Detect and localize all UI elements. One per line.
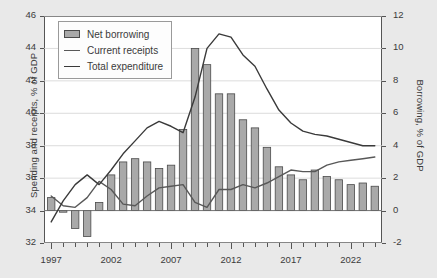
x-tick-label-2012: 2012 — [211, 254, 251, 265]
legend-item-current-receipts: Current receipts — [64, 42, 163, 58]
bar-2016 — [275, 167, 282, 211]
y-right-tick-4: 4 — [393, 139, 423, 150]
bar-2017 — [287, 175, 294, 211]
y-right-tickmark — [382, 211, 386, 212]
legend-label-total-expenditure: Total expenditure — [87, 61, 163, 72]
bar-2019 — [311, 170, 318, 211]
x-tickmark-2024 — [375, 243, 376, 247]
x-tickmark-2014 — [255, 243, 256, 247]
y-left-tick-44: 44 — [6, 41, 36, 52]
x-tick-label-2022: 2022 — [331, 254, 371, 265]
chart-container: Spending and receipts, % of GDP Borrowin… — [0, 0, 437, 278]
x-tickmark-2022 — [351, 243, 352, 249]
y-left-tick-32: 32 — [6, 236, 36, 247]
x-tick-label-1997: 1997 — [31, 254, 71, 265]
x-tickmark-2004 — [135, 243, 136, 247]
bar-1999 — [71, 211, 78, 229]
y-left-tick-42: 42 — [6, 74, 36, 85]
y-left-tickmark — [40, 146, 44, 147]
y-left-tick-34: 34 — [6, 204, 36, 215]
x-tick-label-2002: 2002 — [91, 254, 131, 265]
x-tickmark-2020 — [327, 243, 328, 247]
y-right-tick-0: 0 — [393, 204, 423, 215]
legend-label-current-receipts: Current receipts — [87, 45, 158, 56]
x-tickmark-1999 — [75, 243, 76, 247]
y-left-tickmark — [40, 16, 44, 17]
x-tickmark-2012 — [231, 243, 232, 249]
y-left-tick-38: 38 — [6, 139, 36, 150]
legend-item-total-expenditure: Total expenditure — [64, 58, 163, 74]
x-tickmark-2002 — [111, 243, 112, 249]
bar-1997 — [47, 198, 54, 211]
x-tickmark-2019 — [315, 243, 316, 247]
x-tickmark-1997 — [51, 243, 52, 249]
y-right-tick-2: 2 — [393, 171, 423, 182]
bar-2015 — [263, 147, 270, 210]
legend-label-net-borrowing: Net borrowing — [87, 29, 149, 40]
y-left-tick-46: 46 — [6, 9, 36, 20]
y-right-tick-8: 8 — [393, 74, 423, 85]
x-tickmark-1998 — [63, 243, 64, 247]
x-tickmark-2023 — [363, 243, 364, 247]
bar-2018 — [299, 180, 306, 211]
y-right-tickmark — [382, 113, 386, 114]
bar-2008 — [179, 130, 186, 211]
bar-2005 — [143, 162, 150, 211]
bar-2021 — [335, 180, 342, 211]
y-left-tickmark — [40, 113, 44, 114]
x-tickmark-2009 — [195, 243, 196, 247]
x-tickmark-2006 — [159, 243, 160, 247]
bar-2001 — [95, 202, 102, 210]
bar-2022 — [347, 185, 354, 211]
bar-2012 — [227, 94, 234, 211]
y-left-tickmark — [40, 178, 44, 179]
bar-2009 — [191, 48, 198, 210]
legend-item-net-borrowing: Net borrowing — [64, 26, 163, 42]
y-left-tickmark — [40, 211, 44, 212]
y-right-tickmark — [382, 146, 386, 147]
x-tickmark-2015 — [267, 243, 268, 247]
y-right-tick--2: -2 — [393, 236, 423, 247]
x-tickmark-2010 — [207, 243, 208, 247]
x-tickmark-2013 — [243, 243, 244, 247]
y-left-tickmark — [40, 81, 44, 82]
bar-2007 — [167, 165, 174, 210]
bar-2013 — [239, 120, 246, 211]
x-tickmark-2018 — [303, 243, 304, 247]
x-tickmark-2011 — [219, 243, 220, 247]
y-left-tick-36: 36 — [6, 171, 36, 182]
chart-legend: Net borrowing Current receipts Total exp… — [58, 21, 172, 79]
legend-bar-swatch-icon — [64, 30, 80, 38]
x-tickmark-2005 — [147, 243, 148, 247]
x-tickmark-2016 — [279, 243, 280, 247]
x-tick-label-2017: 2017 — [271, 254, 311, 265]
x-tickmark-2000 — [87, 243, 88, 247]
y-right-tickmark — [382, 178, 386, 179]
x-tickmark-2017 — [291, 243, 292, 249]
y-left-tickmark — [40, 243, 44, 244]
legend-line-swatch-icon — [64, 50, 80, 51]
y-right-tick-6: 6 — [393, 106, 423, 117]
y-right-tick-10: 10 — [393, 41, 423, 52]
bar-2000 — [83, 211, 90, 237]
x-tickmark-2001 — [99, 243, 100, 247]
y-left-tick-40: 40 — [6, 106, 36, 117]
y-right-tickmark — [382, 48, 386, 49]
y-right-tickmark — [382, 16, 386, 17]
bar-2024 — [371, 186, 378, 210]
x-tick-label-2007: 2007 — [151, 254, 191, 265]
y-left-tickmark — [40, 48, 44, 49]
x-tickmark-2008 — [183, 243, 184, 247]
bar-2023 — [359, 183, 366, 211]
legend-line-swatch-dark-icon — [64, 66, 80, 67]
y-right-tick-12: 12 — [393, 9, 423, 20]
y-right-tickmark — [382, 243, 386, 244]
x-tickmark-2007 — [171, 243, 172, 249]
bar-2014 — [251, 128, 258, 211]
bar-2010 — [203, 65, 210, 211]
y-right-tickmark — [382, 81, 386, 82]
x-tickmark-2021 — [339, 243, 340, 247]
bar-2020 — [323, 177, 330, 211]
x-tickmark-2003 — [123, 243, 124, 247]
